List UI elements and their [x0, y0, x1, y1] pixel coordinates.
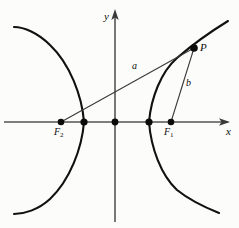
y-axis-label: y — [104, 11, 109, 22]
dot-point-p — [190, 44, 198, 52]
dot-vertex-right — [145, 118, 152, 125]
dot-vertex-left — [80, 118, 87, 125]
focus-right-subscript: 1 — [170, 131, 174, 139]
segment-b-label: b — [186, 78, 191, 88]
point-p-label: P — [200, 42, 207, 53]
x-axis-label: x — [226, 126, 231, 137]
axis-group — [4, 9, 230, 222]
left-branch-upper — [14, 27, 84, 122]
left-branch-lower — [14, 122, 84, 214]
hyperbola-figure: y x F2 F1 P a b — [0, 0, 239, 228]
segment-a-label: a — [132, 61, 137, 71]
right-branch-lower — [149, 122, 219, 213]
figure-canvas — [0, 0, 239, 228]
dot-focus-left — [58, 119, 65, 126]
dot-focus-right — [168, 119, 175, 126]
right-branch-upper — [149, 21, 228, 122]
dot-origin — [112, 119, 119, 126]
focus-left-subscript: 2 — [60, 131, 64, 139]
segment-group — [61, 48, 194, 122]
focus-right-label: F1 — [164, 127, 174, 139]
focus-left-label: F2 — [54, 127, 64, 139]
